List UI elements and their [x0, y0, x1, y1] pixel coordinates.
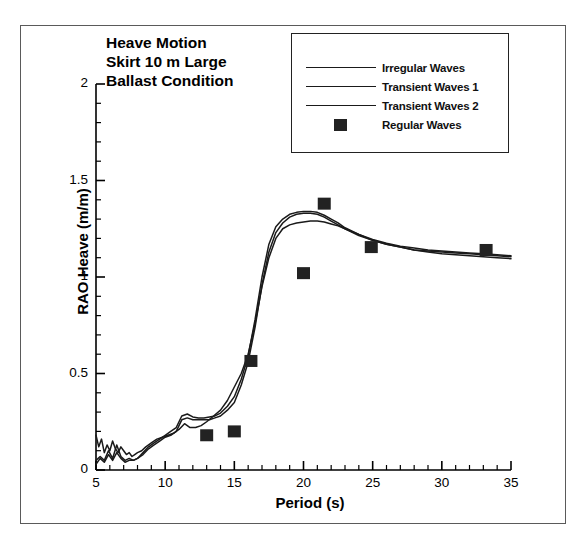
- series-marker-square: [200, 429, 213, 441]
- x-tick-label: 35: [491, 475, 531, 490]
- x-tick-label: 30: [422, 475, 462, 490]
- chart-title-line-3: Ballast Condition: [106, 71, 233, 90]
- legend-label: Regular Waves: [382, 119, 461, 131]
- series-marker-square: [365, 241, 378, 253]
- y-tick-label: 0.5: [48, 365, 88, 380]
- legend-row: Irregular Waves: [300, 59, 465, 77]
- legend-line-icon: [306, 67, 376, 68]
- x-axis-title: Period (s): [200, 494, 420, 511]
- series-marker-square: [228, 425, 241, 437]
- y-tick-label: 1.5: [48, 172, 88, 187]
- series-line: [96, 211, 511, 464]
- legend-square-swatch-icon: [300, 118, 382, 132]
- chart-title-line-1: Heave Motion: [106, 33, 233, 52]
- legend-square-icon: [334, 119, 347, 131]
- legend-label: Transient Waves 1: [382, 81, 479, 93]
- chart-legend: Irregular WavesTransient Waves 1Transien…: [291, 33, 509, 153]
- legend-row: Transient Waves 2: [300, 97, 479, 115]
- series-marker-square: [480, 244, 493, 256]
- legend-line-swatch-icon: [300, 80, 382, 94]
- series-marker-square: [297, 267, 310, 279]
- legend-label: Irregular Waves: [382, 62, 465, 74]
- x-axis-ticks: [96, 461, 511, 470]
- legend-row: Transient Waves 1: [300, 78, 479, 96]
- x-tick-label: 10: [145, 475, 185, 490]
- data-curves: [96, 211, 511, 464]
- legend-line-swatch-icon: [300, 99, 382, 113]
- y-tick-label: 2: [48, 75, 88, 90]
- y-axis-ticks: [96, 84, 105, 470]
- series-line: [96, 221, 511, 456]
- chart-title-line-2: Skirt 10 m Large: [106, 52, 233, 71]
- legend-row: Regular Waves: [300, 116, 461, 134]
- x-tick-label: 25: [353, 475, 393, 490]
- chart-title: Heave Motion Skirt 10 m Large Ballast Co…: [106, 33, 233, 90]
- series-marker-square: [244, 355, 257, 367]
- figure-root: Heave Motion Skirt 10 m Large Ballast Co…: [0, 0, 586, 546]
- series-marker-square: [318, 198, 331, 210]
- legend-label: Transient Waves 2: [382, 100, 479, 112]
- legend-line-icon: [306, 86, 376, 87]
- data-markers: [200, 198, 492, 442]
- y-tick-label: 0: [48, 461, 88, 476]
- legend-line-icon: [306, 105, 376, 106]
- legend-line-swatch-icon: [300, 61, 382, 75]
- x-tick-label: 15: [214, 475, 254, 490]
- x-tick-label: 20: [284, 475, 324, 490]
- series-line: [96, 213, 511, 460]
- x-tick-label: 5: [76, 475, 116, 490]
- y-tick-label: 1: [48, 268, 88, 283]
